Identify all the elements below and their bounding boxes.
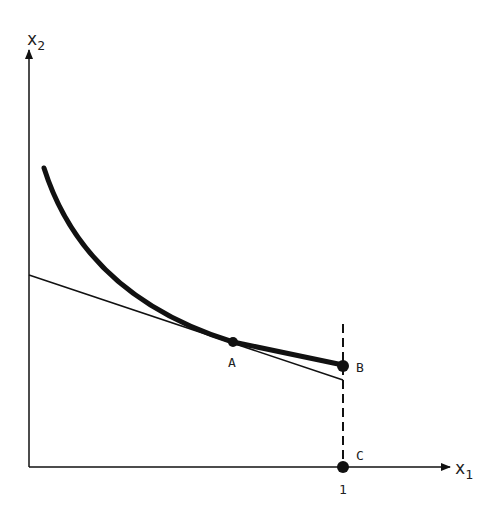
label-b: B — [356, 360, 364, 375]
indifference-curve — [44, 168, 343, 365]
point-b — [337, 360, 349, 372]
point-a — [228, 337, 238, 347]
tick-label-1: 1 — [339, 482, 347, 497]
diagram-canvas: x2 x1 A B C 1 — [0, 0, 493, 519]
label-c: C — [356, 448, 364, 463]
tangent-line — [29, 275, 343, 380]
y-axis-label: x2 — [27, 29, 45, 53]
label-a: A — [228, 355, 236, 370]
point-c — [337, 461, 349, 473]
x-axis-label: x1 — [455, 458, 473, 482]
